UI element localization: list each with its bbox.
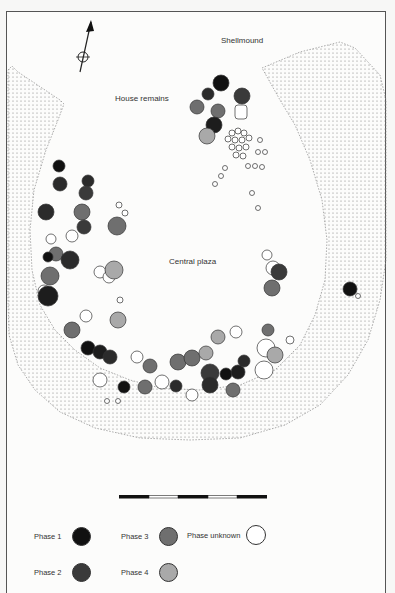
legend-item-phase-2: Phase 2 [34,563,91,582]
house-remains-label: House remains [115,94,169,103]
central-plaza-label: Central plaza [169,257,216,266]
legend-label: Phase unknown [187,531,240,540]
legend-label: Phase 2 [34,568,62,577]
legend-label: Phase 4 [121,568,149,577]
shellmound-label: Shellmound [221,36,263,45]
legend-item-phase-unknown: Phase unknown [187,525,266,545]
legend-label: Phase 3 [121,532,149,541]
legend-label: Phase 1 [34,532,62,541]
phase-2-swatch [72,563,91,582]
phase-unknown-swatch [246,525,266,545]
legend-item-phase-1: Phase 1 [34,527,91,546]
north-arrow-icon [76,20,94,72]
phase-3-swatch [159,527,178,546]
phase-4-swatch [159,563,178,582]
scale-bar [119,495,267,499]
phase-1-swatch [72,527,91,546]
legend-item-phase-3: Phase 3 [121,527,178,546]
legend-item-phase-4: Phase 4 [121,563,178,582]
